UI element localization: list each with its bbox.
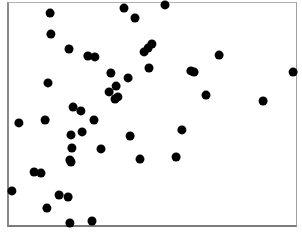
data-point	[289, 68, 298, 77]
data-point	[64, 193, 73, 202]
data-point	[90, 116, 99, 125]
data-point	[140, 47, 149, 56]
data-point	[65, 219, 74, 228]
data-point	[69, 103, 78, 112]
data-point	[67, 158, 76, 167]
data-point	[120, 4, 129, 13]
data-point	[145, 64, 154, 73]
data-point	[42, 204, 51, 213]
data-point	[65, 45, 74, 54]
data-point	[202, 91, 211, 100]
data-point	[55, 191, 64, 200]
data-point	[46, 9, 55, 18]
data-point	[37, 169, 46, 178]
data-point	[161, 0, 170, 9]
data-point	[67, 130, 76, 139]
data-point	[131, 14, 140, 23]
data-point	[88, 217, 97, 226]
data-point	[126, 132, 135, 141]
data-point	[14, 118, 23, 127]
data-point	[112, 82, 121, 91]
data-point	[44, 78, 53, 87]
data-point	[76, 106, 85, 115]
data-point	[90, 52, 99, 61]
data-point	[67, 144, 76, 153]
data-point	[78, 127, 87, 136]
data-point	[41, 116, 50, 125]
data-point	[259, 97, 268, 106]
data-point	[46, 30, 55, 39]
data-point	[111, 95, 120, 104]
data-point	[97, 144, 106, 153]
data-point	[172, 153, 181, 162]
data-point	[124, 73, 133, 82]
data-point	[177, 125, 186, 134]
data-point	[215, 51, 224, 60]
data-point	[190, 68, 199, 77]
data-point	[7, 186, 16, 195]
data-point	[106, 69, 115, 78]
data-point	[105, 87, 114, 96]
scatter-points	[0, 0, 302, 234]
data-point	[136, 155, 145, 164]
